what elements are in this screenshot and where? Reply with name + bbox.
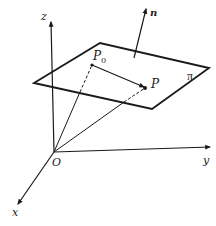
- plane-label: π: [187, 69, 193, 83]
- vector-o-p0-dashed: [80, 65, 92, 92]
- vector-o-p-dashed: [124, 88, 145, 102]
- point-p0: [90, 63, 93, 66]
- x-axis-label: x: [12, 206, 19, 219]
- x-axis: [18, 152, 54, 204]
- normal-label: n: [150, 7, 157, 18]
- diagram-canvas: z y x O n π P0 P: [0, 0, 216, 226]
- point-p0-label: P0: [92, 49, 106, 65]
- z-axis-label: z: [40, 10, 47, 23]
- point-p0-label-subscript: 0: [101, 56, 106, 65]
- plane-pi: [34, 43, 209, 109]
- y-axis: [54, 147, 210, 152]
- diagram-svg: z y x O n π P0 P: [0, 0, 216, 226]
- point-p: [143, 86, 147, 90]
- y-axis-label: y: [202, 154, 210, 167]
- point-p-label: P: [150, 77, 160, 91]
- vector-p0-p: [92, 65, 144, 87]
- origin-label: O: [52, 156, 61, 169]
- normal-vector-n: [134, 9, 146, 58]
